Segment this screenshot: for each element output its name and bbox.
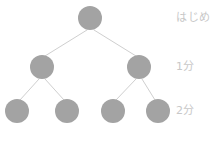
tree-edge — [94, 30, 136, 56]
tree-edge — [45, 30, 87, 56]
tree-node-r — [127, 55, 151, 79]
tier-label-2: 2分 — [176, 105, 195, 117]
tree-node-rl — [101, 99, 125, 123]
tree-node-lr — [55, 99, 79, 123]
node-layer — [5, 6, 170, 123]
tree-diagram-canvas: はじめ1分2分 — [0, 0, 220, 146]
tree-node-l — [30, 55, 54, 79]
tree-edge — [20, 79, 39, 100]
tree-edge — [142, 79, 155, 100]
tree-edge — [45, 79, 64, 100]
tree-edge — [116, 79, 136, 100]
tree-node-ll — [5, 99, 29, 123]
tree-node-rr — [146, 99, 170, 123]
tier-label-0: はじめ — [176, 12, 211, 24]
tier-label-1: 1分 — [176, 61, 195, 73]
tree-node-root — [78, 6, 102, 30]
